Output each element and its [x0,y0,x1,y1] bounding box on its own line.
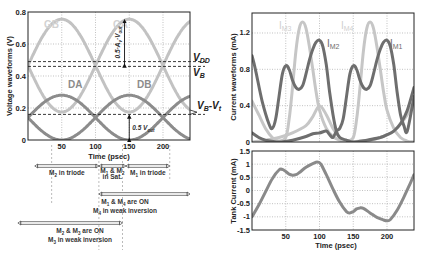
region-label: M2​ & M3​ are ON [56,227,104,236]
x-tick-label: 150 [347,232,360,241]
x-tick-label: 150 [123,142,136,151]
region-label: M2​ in triode [49,169,85,178]
y-tick-label: 0.8 [240,65,250,74]
region-label-line2: in Sat. [103,173,123,180]
vb-label: VB​ [193,67,205,79]
vdd-label: VDD​ [193,52,210,64]
y-tick-label: 0 [246,138,250,147]
series-da [25,95,194,140]
label-db: DB [137,79,151,90]
label-gb: GB [44,19,59,30]
x-tick-label: 100 [89,142,102,151]
region-arrow [35,164,99,168]
right-bottom-x-axis-label: Time (psec) [315,241,357,250]
y-tick-label: 0.2 [16,104,26,113]
label-im3: IM3​ [279,20,292,32]
y-tick-label: 0 [246,186,250,195]
right-bottom-tick-labels: 50100150200-1.5-1-0.500.511.5 [237,147,393,242]
left-y-axis-label: Voltage waveforms (V) [5,36,14,116]
vbvt-bracket-icon [190,110,197,114]
drain-amplitude-label: 0.5 Vout​ [132,124,155,133]
y-tick-label: 0.4 [240,101,251,110]
y-tick-label: 0.4 [16,72,27,81]
right-top-y-axis-label: Current waveforms (mA) [229,33,238,121]
series-db [25,95,194,140]
x-tick-label: 200 [157,142,170,151]
region-arrow [126,164,170,168]
x-tick-label: 200 [381,232,394,241]
region-arrow [99,192,190,196]
y-tick-label: 0.6 [16,40,26,49]
left-x-axis-label: Time (psec) [88,152,130,161]
y-tick-label: -1 [243,212,250,221]
series-tank-current [252,162,414,221]
y-tick-label: 0 [22,136,26,145]
y-tick-label: 1.5 [240,147,250,156]
y-tick-label: -0.5 [237,199,250,208]
left-curves [25,19,194,140]
label-da: DA [68,79,82,90]
right-top-tick-labels: 00.40.81.2 [240,28,251,146]
label-im2: IM2​ [327,38,340,50]
region-arrow [18,221,123,225]
x-tick-label: 50 [58,142,66,151]
x-tick-label: 100 [313,232,326,241]
y-tick-label: 1.2 [240,28,250,37]
region-label: M1​ in triode [130,169,166,178]
figure-canvas: VDD​VB​VB​-Vt​ 5010015020000.20.40.60.8 … [0,0,422,257]
right-bottom-curves [252,162,414,221]
left-curve-labels: GBGADADB [44,19,151,90]
label-im4: IM4​ [341,20,354,32]
y-tick-label: 0.5 [240,173,250,182]
y-tick-label: 1 [246,160,250,169]
y-tick-label: -1.5 [237,226,250,235]
tank-current-plot: 50100150200-1.5-1-0.500.511.5 Tank Curre… [229,147,414,251]
right-bottom-y-axis-label: Tank Current (mA) [229,158,238,224]
voltage-waveforms-plot: VDD​VB​VB​-Vt​ 5010015020000.20.40.60.8 … [5,8,222,251]
region-label-line2: M3​ in weak inversion [48,236,112,245]
region-label: M1​ & M4​ are ON [101,198,149,207]
vb-minus-vt-label: VB​-Vt​ [197,100,222,112]
region-label-line2: M4​ in weak inversion [93,207,157,216]
current-waveforms-plot: 00.40.81.2 Current waveforms (mA) IM3​IM… [229,13,414,147]
x-tick-label: 50 [282,232,290,241]
y-tick-label: 0.8 [16,8,26,17]
label-im1: IM1​ [390,38,403,50]
